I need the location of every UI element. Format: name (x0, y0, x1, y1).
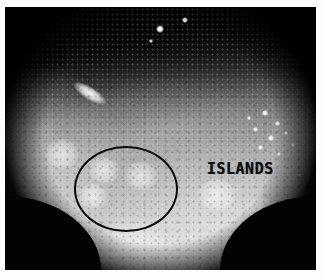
figure-canvas: ISLANDS (0, 0, 324, 280)
islands-annotation-label: ISLANDS (207, 162, 274, 177)
endoscopic-photograph: ISLANDS (5, 7, 316, 270)
region-of-interest-ellipse (74, 146, 178, 232)
